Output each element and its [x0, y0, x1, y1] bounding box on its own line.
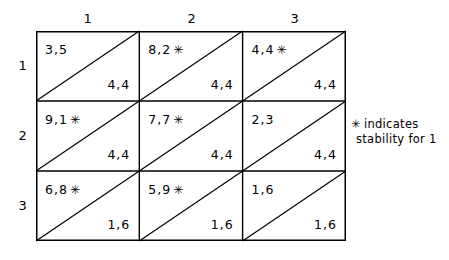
row-payoff-r2c1: 9,1✳ [45, 113, 81, 127]
matrix-grid: 3,5 4,4 8,2✳ 4,4 4,4✳ 4,4 9,1✳ 4,4 7,7✳ [36, 31, 346, 241]
stability-star-r3c1: ✳ [68, 183, 81, 197]
matrix-cell-r1c2: 8,2✳ 4,4 [139, 31, 242, 101]
column-payoff-r3c2: 1,6 [211, 218, 234, 232]
matrix-cell-r3c1: 6,8✳ 1,6 [36, 171, 139, 241]
matrix-cell-r1c3: 4,4✳ 4,4 [243, 31, 346, 101]
row-payoff-value-r1c3: 4,4 [252, 42, 275, 57]
stability-star-r3c2: ✳ [171, 183, 184, 197]
row-payoff-r2c3: 2,3 [252, 113, 277, 127]
column-payoff-r3c3: 1,6 [314, 218, 337, 232]
row-payoff-r1c2: 8,2✳ [148, 43, 184, 57]
row-payoff-r1c1: 3,5 [45, 43, 70, 57]
row-header-2: 2 [14, 128, 32, 144]
row-payoff-r3c1: 6,8✳ [45, 183, 81, 197]
payoff-matrix-figure: 1 2 3 1 2 3 3 [0, 0, 449, 260]
stability-star-r3c3 [274, 183, 276, 197]
stability-star-r2c1: ✳ [68, 113, 81, 127]
stability-star-r1c3: ✳ [274, 43, 287, 57]
matrix-cell-r1c1: 3,5 4,4 [36, 31, 139, 101]
row-payoff-value-r3c2: 5,9 [148, 182, 171, 197]
row-payoff-r3c3: 1,6 [252, 183, 277, 197]
matrix-cell-r3c2: 5,9✳ 1,6 [139, 171, 242, 241]
legend-line-2: stability for 1 [351, 132, 447, 147]
column-header-2: 2 [140, 11, 244, 27]
legend-text-1: indicates [364, 117, 419, 131]
matrix-cell-r2c1: 9,1✳ 4,4 [36, 101, 139, 171]
row-payoff-value-r2c3: 2,3 [252, 112, 275, 127]
matrix-cell-r3c3: 1,6 1,6 [243, 171, 346, 241]
column-payoff-r1c1: 4,4 [107, 78, 130, 92]
column-payoff-r2c1: 4,4 [107, 148, 130, 162]
legend-line-1: ✳indicates [351, 117, 447, 132]
row-payoff-r2c2: 7,7✳ [148, 113, 184, 127]
asterisk-icon: ✳ [351, 117, 364, 131]
legend: ✳indicates stability for 1 [351, 117, 447, 147]
column-header-1: 1 [36, 11, 140, 27]
column-payoff-r2c3: 4,4 [314, 148, 337, 162]
row-payoff-value-r1c2: 8,2 [148, 42, 171, 57]
row-header-1: 1 [14, 58, 32, 74]
row-payoff-value-r3c1: 6,8 [45, 182, 68, 197]
stability-star-r2c3 [274, 113, 276, 127]
stability-star-r1c2: ✳ [171, 43, 184, 57]
matrix-cell-r2c2: 7,7✳ 4,4 [139, 101, 242, 171]
row-payoff-value-r3c3: 1,6 [252, 182, 275, 197]
stability-star-r2c2: ✳ [171, 113, 184, 127]
row-header-3: 3 [14, 198, 32, 214]
row-payoff-value-r1c1: 3,5 [45, 42, 68, 57]
column-payoff-r3c1: 1,6 [107, 218, 130, 232]
column-header-3: 3 [243, 11, 347, 27]
column-payoff-r2c2: 4,4 [211, 148, 234, 162]
row-payoff-r1c3: 4,4✳ [252, 43, 288, 57]
column-payoff-r1c2: 4,4 [211, 78, 234, 92]
row-payoff-r3c2: 5,9✳ [148, 183, 184, 197]
row-payoff-value-r2c2: 7,7 [148, 112, 171, 127]
matrix-cell-r2c3: 2,3 4,4 [243, 101, 346, 171]
row-payoff-value-r2c1: 9,1 [45, 112, 68, 127]
stability-star-r1c1 [68, 43, 70, 57]
column-payoff-r1c3: 4,4 [314, 78, 337, 92]
